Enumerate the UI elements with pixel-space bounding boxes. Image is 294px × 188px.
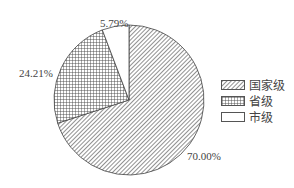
label-national: 70.00% — [187, 150, 221, 162]
legend: 国家级 省级 市级 — [221, 77, 285, 125]
diagonal-hatch-swatch-icon — [221, 80, 245, 90]
legend-item-national: 国家级 — [221, 77, 285, 93]
pie-slices — [54, 25, 204, 175]
blank-swatch-icon — [221, 112, 245, 122]
legend-item-city: 市级 — [221, 109, 285, 125]
legend-label: 市级 — [249, 108, 273, 126]
legend-item-provincial: 省级 — [221, 93, 285, 109]
label-city: 5.79% — [100, 17, 128, 29]
label-provincial: 24.21% — [19, 67, 53, 79]
cross-hatch-swatch-icon — [221, 96, 245, 106]
